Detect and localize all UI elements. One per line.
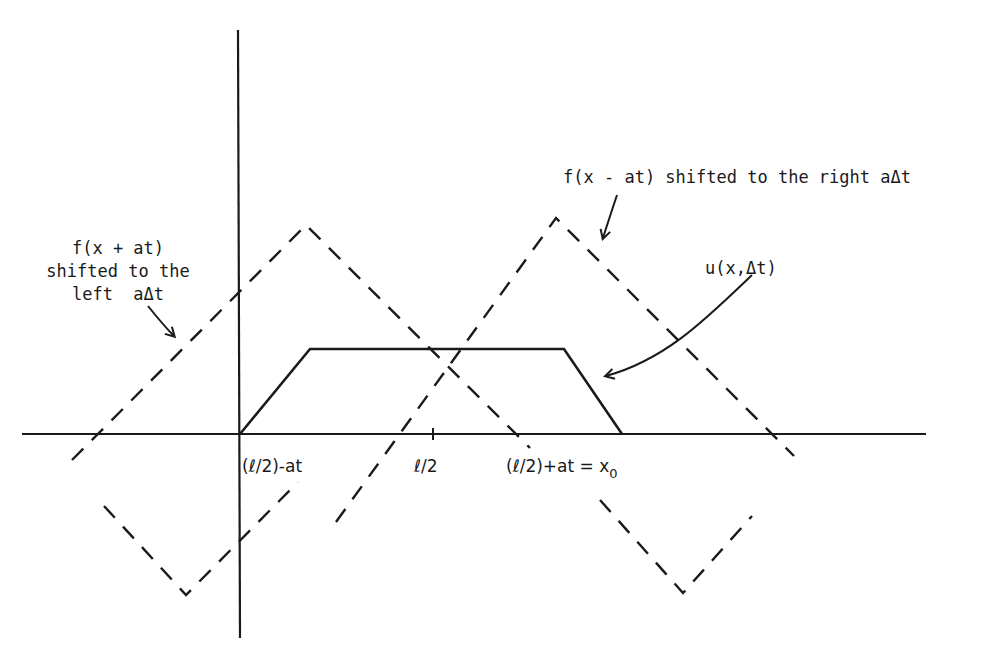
arrow-left-shift bbox=[148, 306, 174, 336]
diagram-canvas: f(x - at) shifted to the right aΔt f(x +… bbox=[0, 0, 992, 670]
arrow-right-shift bbox=[603, 195, 617, 238]
label-left-shift-1: f(x + at) bbox=[72, 238, 164, 258]
tick-label-right: (ℓ/2)+at = x0 bbox=[506, 456, 618, 481]
tick-label-right-sub: 0 bbox=[609, 466, 617, 481]
label-left-shift-2: shifted to the bbox=[46, 261, 189, 281]
label-right-shift: f(x - at) shifted to the right aΔt bbox=[563, 167, 911, 187]
label-u-solution: u(x,Δt) bbox=[705, 258, 777, 278]
y-axis bbox=[238, 30, 240, 638]
label-left-shift-3: left aΔt bbox=[72, 284, 164, 304]
tick-label-right-main: (ℓ/2)+at = x bbox=[506, 456, 609, 476]
tick-label-left: (ℓ/2)-at bbox=[242, 456, 302, 476]
u-solution-curve bbox=[240, 349, 622, 434]
tick-label-mid: ℓ/2 bbox=[413, 456, 438, 476]
